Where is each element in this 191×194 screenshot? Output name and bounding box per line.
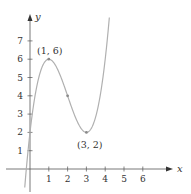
point-marker <box>47 58 50 61</box>
x-axis-label: x <box>177 163 183 174</box>
y-axis-arrow-icon <box>28 14 33 21</box>
y-tick-label: 6 <box>17 54 23 64</box>
y-axis-label: y <box>34 11 41 22</box>
y-tick-label: 7 <box>17 36 23 46</box>
x-axis-arrow-icon <box>166 167 173 172</box>
y-tick-label: 1 <box>17 146 23 156</box>
point-marker <box>66 94 69 97</box>
max-point-label: (1, 6) <box>37 45 63 56</box>
y-tick-label: 3 <box>17 109 23 119</box>
y-tick-label: 4 <box>17 91 23 101</box>
point-marker <box>85 131 88 134</box>
x-tick-label: 4 <box>102 174 108 184</box>
x-tick-label: 2 <box>65 174 71 184</box>
min-point-label: (3, 2) <box>77 139 103 150</box>
x-tick-label: 6 <box>140 174 146 184</box>
x-tick-label: 1 <box>46 174 52 184</box>
cubic-curve <box>25 17 110 187</box>
marked-points <box>47 58 87 134</box>
x-axis: x <box>6 163 183 174</box>
y-tick-label: 2 <box>17 127 23 137</box>
y-tick-label: 5 <box>17 73 23 83</box>
x-tick-label: 3 <box>84 174 90 184</box>
x-tick-label: 5 <box>121 174 127 184</box>
function-graph: x y 123456 1234567 (1, 6) (3, 2) <box>0 0 191 194</box>
